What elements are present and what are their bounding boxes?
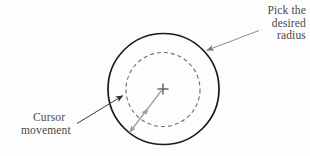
label-pick-radius-line-3: radius <box>267 29 306 42</box>
radius-drag-arrow-midhead <box>142 108 149 115</box>
label-pick-radius-line-1: Pick the <box>267 4 306 17</box>
label-cursor-movement: Cursor movement <box>21 111 71 136</box>
label-cursor-movement-line-1: Cursor <box>21 111 71 124</box>
label-cursor-movement-line-2: movement <box>21 124 71 137</box>
label-pick-desired-radius: Pick the desired radius <box>267 4 306 42</box>
pick-radius-leader-arrow <box>207 31 260 51</box>
figure-canvas: Pick the desired radius Cursor movement <box>0 0 310 156</box>
label-pick-radius-line-2: desired <box>267 17 306 30</box>
